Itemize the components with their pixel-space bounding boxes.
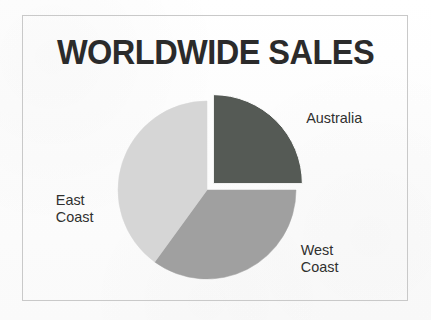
chart-page: WORLDWIDE SALES Australia East Coast Wes… [0, 0, 431, 320]
slice-label-west-coast: West Coast [301, 242, 339, 275]
pie-slice-australia[interactable] [213, 95, 302, 184]
pie-chart-svg [0, 0, 431, 320]
pie-chart [0, 0, 431, 320]
pie-slice-group [118, 95, 302, 279]
slice-label-australia: Australia [306, 110, 362, 127]
slice-label-east-coast: East Coast [56, 192, 94, 225]
